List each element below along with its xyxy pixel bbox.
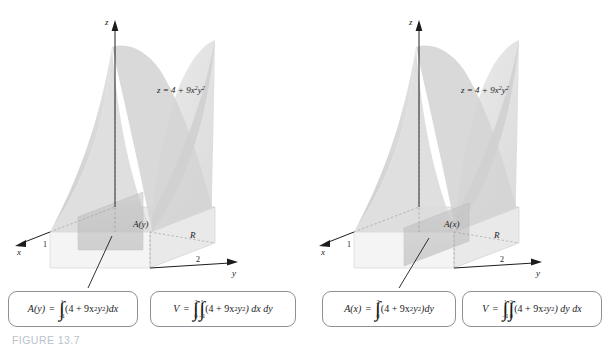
- surface-eq-lead: z = 4 + 9x: [460, 85, 499, 95]
- y-axis-label: y: [231, 268, 236, 278]
- formula-volume-left: V = 2 ∫ 0 1 ∫ −1 (4 + 9x2y2) dx dy: [173, 299, 272, 319]
- z-axis-label: z: [408, 17, 413, 27]
- callout-volume-formula-left: V = 2 ∫ 0 1 ∫ −1 (4 + 9x2y2) dx dy: [150, 291, 296, 327]
- formula-area-left: A(y) = 1 ∫ −1 (4 + 9x2y2)dx: [28, 299, 118, 319]
- surface-eq-sup2: 2: [202, 85, 205, 91]
- slice-label-Ay: A(y): [132, 219, 149, 229]
- z-axis-label: z: [104, 17, 109, 27]
- formula-area-body-left: (4 + 9x: [65, 304, 94, 314]
- formula-area-tail-left: )dx: [105, 304, 118, 314]
- figure-13-7: z 1 x 2 y A(y) R z = 4 + 9x2y2: [0, 0, 608, 353]
- slice-label-Ax: A(x): [443, 219, 460, 229]
- integral-inner-volume-left: 1 ∫ −1: [199, 299, 205, 319]
- formula-volume-right: V = 1 ∫ −1 2 ∫ 0 (4 + 9x2y2) dy dx: [482, 299, 581, 319]
- y-axis-arrow-icon: [531, 259, 542, 266]
- surface-eq-sup2: 2: [506, 85, 509, 91]
- callout-area-formula-left: A(y) = 1 ∫ −1 (4 + 9x2y2)dx: [8, 291, 138, 327]
- surface-equation-label: z = 4 + 9x2y2: [460, 85, 509, 95]
- formula-area-fn-left: A(y): [28, 304, 45, 314]
- y-tick-2: 2: [196, 255, 200, 264]
- figure-caption: FIGURE 13.7: [12, 334, 80, 346]
- x-axis-arrow-icon: [15, 240, 26, 247]
- x-axis-label: x: [320, 247, 325, 257]
- integral-inner-volume-right: 2 ∫ 0: [508, 299, 514, 319]
- x-tick-1: 1: [43, 240, 47, 249]
- formula-area-var2-right: y: [413, 304, 417, 314]
- y-axis: [454, 263, 534, 268]
- panel-right: z 1 x 2 y A(x) R z = 4 + 9x2y2 A(x) =: [304, 0, 608, 353]
- surface-equation-label: z = 4 + 9x2y2: [156, 85, 205, 95]
- x-axis-label: x: [16, 247, 21, 257]
- formula-area-right: A(x) = 2 ∫ 0 (4 + 9x2y2)dy: [344, 299, 434, 319]
- region-label-R: R: [189, 230, 196, 240]
- y-axis-label: y: [535, 268, 540, 278]
- formula-area-eq-left: =: [45, 304, 59, 314]
- integral-lower-area-left: −1: [59, 313, 65, 319]
- callout-area-formula-right: A(x) = 2 ∫ 0 (4 + 9x2y2)dy: [322, 291, 456, 327]
- formula-volume-body-left: (4 + 9x: [205, 304, 234, 314]
- panel-left: z 1 x 2 y A(y) R z = 4 + 9x2y2: [0, 0, 304, 353]
- integral-inner-lower-right: 0: [510, 313, 513, 319]
- z-axis-arrow-icon: [416, 20, 423, 31]
- y-axis: [150, 263, 230, 268]
- region-label-R: R: [493, 230, 500, 240]
- formula-area-fn-right: A(x): [344, 304, 361, 314]
- callout-volume-formula-right: V = 1 ∫ −1 2 ∫ 0 (4 + 9x2y2) dy dx: [462, 291, 602, 327]
- formula-area-eq-right: =: [361, 304, 375, 314]
- y-axis-arrow-icon: [227, 259, 238, 266]
- formula-area-body-right: (4 + 9x: [381, 304, 410, 314]
- integral-sign-area-left: 1 ∫ −1: [59, 299, 65, 319]
- integral-sign-area-right: 2 ∫ 0: [375, 299, 381, 319]
- x-axis-arrow-icon: [319, 240, 330, 247]
- integral-inner-lower-left: −1: [199, 313, 205, 319]
- z-axis-arrow-icon: [112, 20, 119, 31]
- y-tick-2: 2: [500, 255, 504, 264]
- formula-volume-eq-left: =: [179, 304, 193, 314]
- integral-outer-lower-left: 0: [194, 313, 197, 319]
- formula-area-tail-right: )dy: [421, 304, 434, 314]
- formula-volume-tail-right: ) dy dx: [554, 304, 581, 314]
- formula-volume-tail-left: ) dx dy: [245, 304, 272, 314]
- formula-volume-eq-right: =: [488, 304, 502, 314]
- integral-lower-area-right: 0: [376, 313, 379, 319]
- x-tick-1: 1: [347, 240, 351, 249]
- formula-volume-body-right: (4 + 9x: [514, 304, 543, 314]
- surface-eq-lead: z = 4 + 9x: [156, 85, 195, 95]
